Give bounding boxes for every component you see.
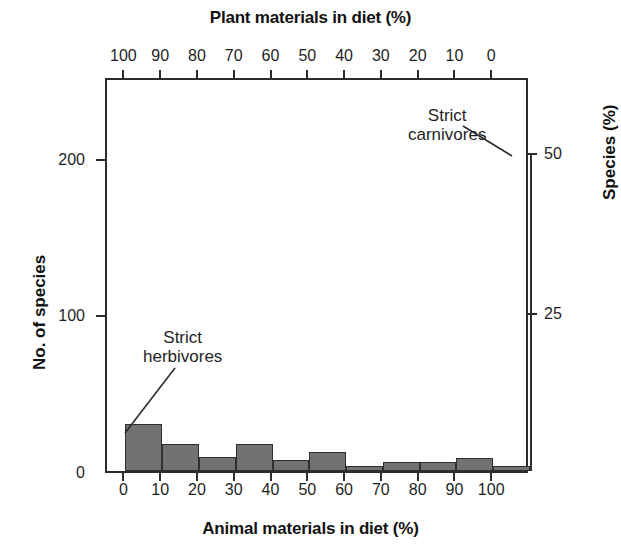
annotation-carnivores-line1: Strict: [408, 106, 486, 125]
bottom-tick-mark-80: [417, 473, 419, 481]
top-tick-mark-90: [159, 70, 161, 78]
top-tick-mark-60: [270, 70, 272, 78]
left-axis-title: No. of species: [30, 255, 50, 370]
annotation-herbivores-line2: herbivores: [143, 347, 222, 366]
bottom-tick-label-80: 80: [409, 481, 427, 499]
bottom-axis-title: Animal materials in diet (%): [0, 519, 621, 539]
bar-20-29: [199, 457, 236, 471]
bottom-tick-label-70: 70: [372, 481, 390, 499]
top-tick-label-40: 40: [335, 47, 353, 65]
bottom-tick-mark-0: [122, 473, 124, 481]
bottom-tick-label-90: 90: [446, 481, 464, 499]
bottom-tick-label-40: 40: [262, 481, 280, 499]
right-tick-label-25: 25: [544, 305, 562, 323]
left-tick-mark-200: [96, 159, 105, 161]
bottom-tick-mark-10: [159, 473, 161, 481]
top-tick-label-60: 60: [262, 47, 280, 65]
bottom-tick-label-50: 50: [298, 481, 316, 499]
bottom-tick-mark-100: [490, 473, 492, 481]
left-tick-label-100: 100: [58, 307, 85, 325]
bottom-tick-label-20: 20: [188, 481, 206, 499]
top-tick-label-70: 70: [225, 47, 243, 65]
bottom-tick-label-10: 10: [151, 481, 169, 499]
bar-30-39: [236, 444, 273, 471]
bottom-tick-label-0: 0: [119, 481, 128, 499]
top-tick-mark-50: [306, 70, 308, 78]
top-tick-label-0: 0: [487, 47, 496, 65]
top-tick-mark-20: [417, 70, 419, 78]
bottom-tick-label-100: 100: [478, 481, 505, 499]
bottom-tick-label-60: 60: [335, 481, 353, 499]
top-tick-label-90: 90: [151, 47, 169, 65]
bottom-tick-mark-60: [343, 473, 345, 481]
bar-90-99: [456, 458, 493, 471]
top-tick-mark-70: [233, 70, 235, 78]
bar-70-79: [383, 462, 420, 471]
top-tick-mark-100: [122, 70, 124, 78]
top-tick-label-100: 100: [110, 47, 137, 65]
top-tick-mark-80: [196, 70, 198, 78]
bottom-tick-mark-30: [233, 473, 235, 481]
bottom-tick-mark-50: [306, 473, 308, 481]
bar-50-59: [309, 452, 346, 471]
left-tick-label-0: 0: [76, 464, 85, 482]
annotation-herbivores-line1: Strict: [143, 328, 222, 347]
bar-10-19: [162, 444, 199, 471]
annotation-strict-herbivores: Strict herbivores: [143, 328, 222, 366]
top-tick-label-10: 10: [446, 47, 464, 65]
top-tick-mark-30: [380, 70, 382, 78]
bottom-tick-label-30: 30: [225, 481, 243, 499]
histogram-figure: Plant materials in diet (%) Animal mater…: [0, 0, 621, 555]
top-tick-label-20: 20: [409, 47, 427, 65]
bar-100: [493, 466, 530, 471]
bar-0-9: [125, 424, 162, 471]
bottom-tick-mark-40: [270, 473, 272, 481]
bar-60-69: [346, 466, 383, 471]
right-axis-title: Species (%): [600, 105, 620, 200]
annotation-strict-carnivores: Strict carnivores: [408, 106, 486, 144]
bottom-tick-mark-70: [380, 473, 382, 481]
bar-undefined: [530, 153, 532, 471]
top-axis-title: Plant materials in diet (%): [0, 8, 621, 28]
top-tick-label-30: 30: [372, 47, 390, 65]
bar-80-89: [420, 462, 457, 471]
bar-40-49: [273, 460, 310, 471]
right-tick-label-50: 50: [544, 145, 562, 163]
bottom-tick-mark-20: [196, 473, 198, 481]
bottom-tick-mark-90: [453, 473, 455, 481]
annotation-carnivores-line2: carnivores: [408, 125, 486, 144]
top-tick-label-50: 50: [298, 47, 316, 65]
top-tick-mark-0: [490, 70, 492, 78]
left-tick-label-200: 200: [58, 151, 85, 169]
top-tick-mark-40: [343, 70, 345, 78]
top-tick-mark-10: [453, 70, 455, 78]
left-tick-mark-100: [96, 315, 105, 317]
top-tick-label-80: 80: [188, 47, 206, 65]
